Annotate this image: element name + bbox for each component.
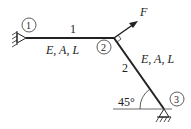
angle-arc — [140, 89, 150, 109]
truss-diagram: 45° F 1 2 3 1 E, A, L 2 E, A, L — [0, 0, 191, 129]
node-2-label: 2 — [101, 42, 106, 53]
node-1-label: 1 — [26, 20, 31, 31]
bar-1-number: 1 — [70, 22, 76, 36]
force-label: F — [139, 5, 148, 19]
bar-2-properties: E, A, L — [140, 52, 174, 66]
bar-1-properties: E, A, L — [45, 43, 79, 57]
angle-label: 45° — [118, 95, 135, 109]
node-3-label: 3 — [174, 94, 179, 105]
force-arrow — [114, 21, 138, 38]
pin-support-node-1 — [12, 31, 26, 47]
pin-support-node-3 — [156, 109, 171, 122]
bar-2-number: 2 — [122, 61, 128, 75]
